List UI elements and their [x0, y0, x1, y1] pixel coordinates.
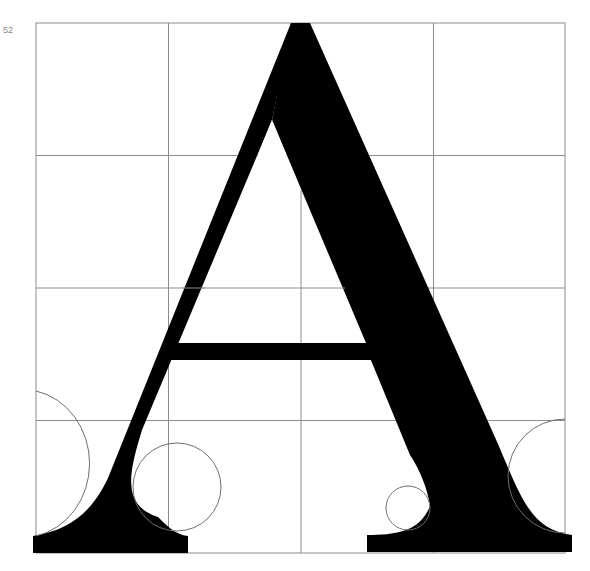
left-large-arc: [36, 391, 90, 536]
letter-a-construction-figure: [0, 0, 590, 571]
left-small-circle: [133, 443, 221, 531]
right-small-circle: [386, 486, 430, 530]
